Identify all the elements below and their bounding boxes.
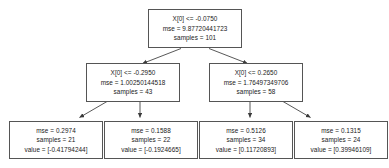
node-samples: samples = 22	[132, 135, 171, 144]
node-value: value = [0.11720893]	[216, 145, 276, 154]
edge-root-to-internal-left	[143, 49, 182, 64]
edge-root-to-internal-right	[209, 49, 248, 64]
edge-internal-left-to-leaf-1	[80, 102, 108, 118]
node-samples: samples = 43	[114, 87, 153, 96]
node-value: value = [-0.1924665]	[121, 145, 180, 154]
node-condition: X[0] <= 0.2650	[235, 68, 278, 77]
tree-node-leaf-1[interactable]: mse = 0.2974 samples = 21 value = [-0.41…	[9, 121, 103, 159]
node-mse: mse = 1.76497349706	[224, 78, 289, 87]
node-condition: X[0] <= -0.0750	[173, 14, 218, 23]
node-condition: X[0] <= -0.2950	[111, 68, 156, 77]
node-samples: samples = 58	[237, 87, 276, 96]
node-samples: samples = 21	[37, 135, 76, 144]
node-samples: samples = 101	[174, 33, 216, 42]
tree-node-leaf-2[interactable]: mse = 0.1588 samples = 22 value = [-0.19…	[104, 121, 198, 159]
node-mse: mse = 0.5126	[226, 126, 266, 135]
node-mse: mse = 0.1588	[131, 126, 171, 135]
tree-node-internal-right[interactable]: X[0] <= 0.2650 mse = 1.76497349706 sampl…	[209, 63, 303, 102]
decision-tree-diagram: X[0] <= -0.0750 mse = 9.87720441723 samp…	[0, 0, 389, 168]
node-samples: samples = 24	[322, 135, 361, 144]
tree-node-root[interactable]: X[0] <= -0.0750 mse = 9.87720441723 samp…	[148, 9, 242, 48]
tree-node-internal-left[interactable]: X[0] <= -0.2950 mse = 1.00250144518 samp…	[86, 63, 180, 102]
node-mse: mse = 9.87720441723	[163, 24, 228, 33]
node-mse: mse = 0.2974	[36, 126, 76, 135]
edge-internal-right-to-leaf-4	[283, 102, 311, 118]
node-value: value = [0.39946109]	[311, 145, 372, 154]
tree-node-leaf-4[interactable]: mse = 0.1315 samples = 24 value = [0.399…	[294, 121, 388, 159]
node-mse: mse = 0.1315	[321, 126, 361, 135]
node-value: value = [-0.41794244]	[24, 145, 87, 154]
tree-node-leaf-3[interactable]: mse = 0.5126 samples = 34 value = [0.117…	[199, 121, 293, 159]
node-mse: mse = 1.00250144518	[101, 78, 166, 87]
node-samples: samples = 34	[227, 135, 266, 144]
